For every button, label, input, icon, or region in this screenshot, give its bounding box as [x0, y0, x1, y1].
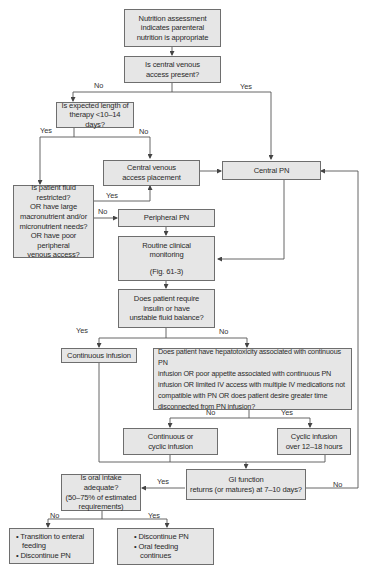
edge-label-length-no: No	[139, 127, 148, 136]
start-node: Nutrition assessment indicates parentera…	[124, 9, 221, 47]
node-text: micronutrient needs?	[20, 222, 88, 232]
insulin-question: Does patient require insulin or have uns…	[118, 289, 215, 328]
node-text: Does patient require	[134, 294, 199, 304]
node-text: macronutrient and/or	[20, 212, 87, 222]
connector-layer	[0, 0, 365, 571]
routine-monitoring-node: Routine clinical monitoring (Fig. 61-3)	[118, 236, 215, 281]
node-text: nutrition is appropriate	[137, 33, 209, 43]
node-text: Is patient fluid restricted?	[17, 183, 90, 202]
node-text: Continuous infusion	[67, 351, 131, 361]
node-text: OR have poor	[31, 231, 76, 241]
bullet-item: Oral feeding	[134, 542, 178, 552]
edge-label-insulin-no: No	[219, 327, 228, 336]
bullet-item: Discontinue PN	[134, 532, 189, 542]
bullet-item-continuation: feeding	[16, 541, 46, 551]
node-text: (50–75% of estimated	[66, 493, 137, 503]
node-text: Cyclic infusion	[291, 432, 337, 442]
edge-label-gi-yes: Yes	[157, 477, 169, 486]
node-text: peripheral	[37, 241, 69, 251]
edge-label-insulin-yes: Yes	[76, 326, 88, 335]
node-text: indicates parenteral	[141, 23, 204, 33]
edge-label-fluid-yes: Yes	[106, 191, 118, 200]
edge-label-central-no: No	[94, 81, 103, 90]
node-text: Routine clinical	[142, 241, 191, 251]
node-text: monitoring	[150, 250, 184, 260]
node-text: unstable fluid balance?	[129, 313, 203, 323]
central-access-placement-node: Central venous access placement	[103, 160, 200, 186]
node-text: access present?	[146, 70, 199, 80]
oral-feeding-node: Discontinue PN Oral feeding continues	[117, 528, 214, 565]
fluid-restricted-question: Is patient fluid restricted? OR have lar…	[13, 185, 94, 258]
node-text: Continuous or	[148, 432, 193, 442]
bullet-item: Transition to enteral	[16, 532, 84, 542]
edge-label-oral-no: No	[50, 511, 59, 520]
node-text: Does patient have hepatotoxicity associa…	[158, 346, 348, 368]
node-text: Is central venous	[145, 60, 200, 70]
node-text: compatible with PN OR does patient desir…	[158, 390, 327, 401]
edge-label-length-yes: Yes	[40, 126, 52, 135]
edge-label-oral-yes: Yes	[148, 511, 160, 520]
continuous-infusion-node: Continuous infusion	[61, 348, 137, 363]
edge-label-hepato-no: No	[206, 408, 215, 417]
cyclic-infusion-node: Cyclic infusion over 12–18 hours	[277, 428, 351, 455]
edge-label-hepato-yes: Yes	[281, 408, 293, 417]
bullet-item: Discontinue PN	[16, 551, 71, 561]
peripheral-pn-node: Peripheral PN	[118, 209, 215, 227]
node-text: insulin or have	[143, 304, 190, 314]
node-text: venous access?	[27, 250, 79, 260]
node-text: Central venous	[127, 163, 176, 173]
node-text: requirements)	[79, 502, 124, 512]
node-text: infusion OR poor appetite associated wit…	[158, 368, 331, 379]
node-text: returns (or matures) at 7–10 days?	[190, 485, 302, 495]
node-text: Nutrition assessment	[139, 14, 207, 24]
edge-label-gi-no: No	[333, 480, 342, 489]
gi-function-question: GI function returns (or matures) at 7–10…	[186, 469, 306, 500]
node-text: Peripheral PN	[144, 213, 189, 223]
node-text: Is oral intake adequate?	[65, 473, 137, 492]
node-text: GI function	[228, 475, 263, 485]
node-text: access placement	[122, 173, 180, 183]
node-text: Central PN	[254, 166, 290, 176]
node-text: OR have large	[30, 202, 77, 212]
central-access-question: Is central venous access present?	[124, 56, 221, 83]
node-text: cyclic infusion	[148, 442, 193, 452]
enteral-transition-node: Transition to enteral feeding Discontinu…	[9, 528, 94, 564]
hepatotoxicity-question: Does patient have hepatotoxicity associa…	[153, 348, 352, 410]
oral-intake-question: Is oral intake adequate? (50–75% of esti…	[61, 474, 141, 511]
node-text: over 12–18 hours	[286, 442, 343, 452]
node-text: therapy <10–14 days?	[60, 110, 130, 129]
node-text: infusion OR limited IV access with multi…	[158, 379, 345, 390]
figure-reference: (Fig. 61-3)	[150, 267, 183, 277]
bullet-item-continuation: continues	[134, 551, 171, 561]
central-pn-node: Central PN	[222, 161, 321, 180]
therapy-length-question: Is expected length of therapy <10–14 day…	[56, 102, 134, 128]
edge-label-central-yes: Yes	[240, 82, 252, 91]
continuous-or-cyclic-node: Continuous or cyclic infusion	[123, 428, 218, 455]
node-text: Is expected length of	[62, 101, 129, 111]
edge-label-fluid-no: No	[98, 207, 107, 216]
